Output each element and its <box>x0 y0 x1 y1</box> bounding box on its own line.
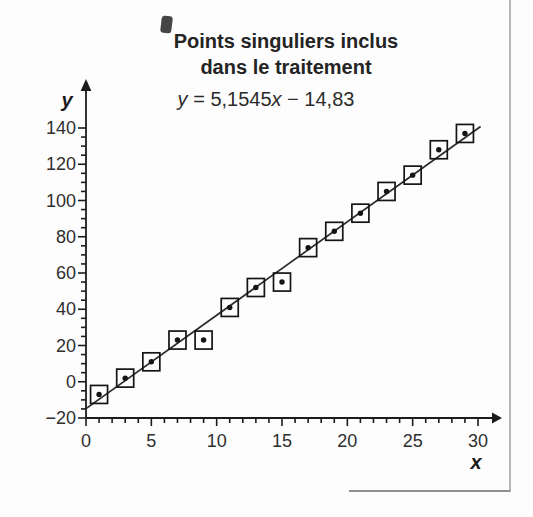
data-point <box>410 172 415 177</box>
x-tick-label: 0 <box>81 431 91 451</box>
x-tick-label: 20 <box>337 431 357 451</box>
data-point <box>462 131 467 136</box>
y-tick-label: 100 <box>46 191 76 211</box>
data-point <box>358 210 363 215</box>
y-axis-label: y <box>60 89 73 111</box>
data-point <box>175 337 180 342</box>
data-point <box>305 245 310 250</box>
scanned-figure-page: Points singuliers inclus dans le traitem… <box>0 0 533 517</box>
data-point <box>149 359 154 364</box>
y-tick-label: 40 <box>56 299 76 319</box>
y-tick-label: 20 <box>56 336 76 356</box>
x-axis-arrow-icon <box>492 413 502 424</box>
y-tick-label: 0 <box>66 372 76 392</box>
x-tick-label: 30 <box>468 431 488 451</box>
data-point <box>201 337 206 342</box>
y-tick-label: 60 <box>56 263 76 283</box>
y-tick-label: 140 <box>46 118 76 138</box>
data-point <box>253 285 258 290</box>
y-tick-label: −20 <box>45 408 76 428</box>
data-point <box>96 392 101 397</box>
y-tick-label: 120 <box>46 154 76 174</box>
chart-canvas: 051015202530−20020406080100120140yx <box>0 0 533 517</box>
data-point <box>384 189 389 194</box>
x-axis-label: x <box>469 451 482 473</box>
x-tick-label: 25 <box>403 431 423 451</box>
data-point <box>123 375 128 380</box>
data-point <box>436 147 441 152</box>
y-tick-label: 80 <box>56 227 76 247</box>
y-axis-arrow-icon <box>81 79 92 91</box>
data-point <box>227 305 232 310</box>
x-tick-label: 10 <box>207 431 227 451</box>
data-point <box>332 229 337 234</box>
x-tick-label: 15 <box>272 431 292 451</box>
x-tick-label: 5 <box>146 431 156 451</box>
data-point <box>279 279 284 284</box>
